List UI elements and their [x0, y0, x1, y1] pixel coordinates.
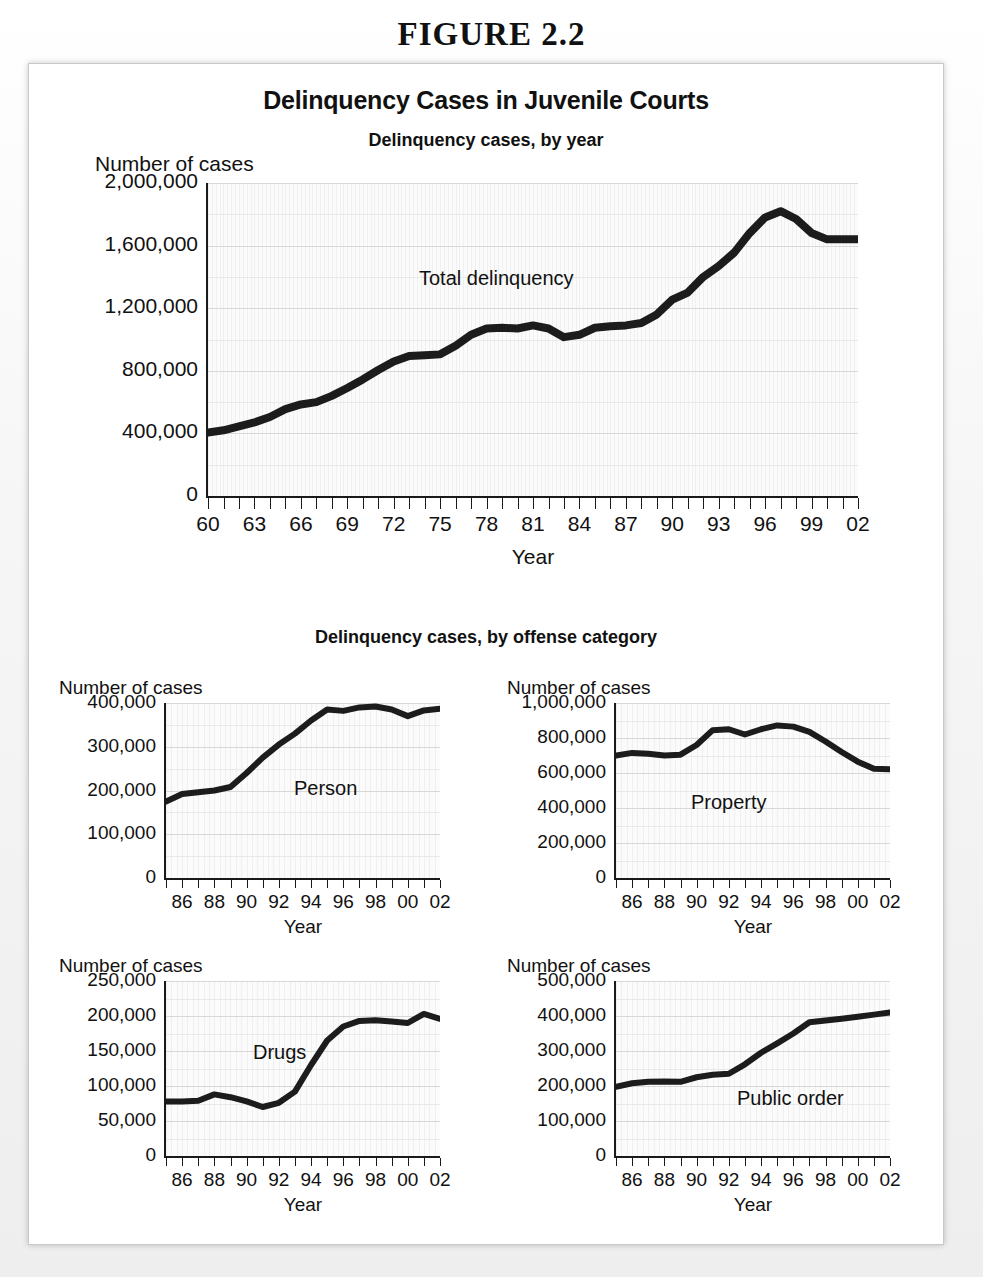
- x-tick-mark: [270, 498, 271, 509]
- x-tick-mark: [533, 498, 534, 509]
- y-tick-label: 1,200,000: [29, 294, 198, 318]
- x-tick-mark: [734, 498, 735, 509]
- x-tick-mark: [279, 1158, 280, 1166]
- x-tick-mark: [424, 880, 425, 888]
- x-tick-mark: [761, 880, 762, 888]
- x-tick-mark: [247, 1158, 248, 1166]
- x-tick-label: 02: [412, 1169, 468, 1191]
- y-axis-line: [614, 981, 616, 1156]
- y-tick-label: 400,000: [469, 796, 606, 818]
- y-tick-label: 200,000: [469, 1074, 606, 1096]
- series-label-total: Total delinquency: [419, 267, 574, 290]
- x-tick-mark: [549, 498, 550, 509]
- x-tick-mark: [208, 498, 209, 509]
- x-tick-mark: [518, 498, 519, 509]
- y-tick-label: 0: [29, 866, 156, 888]
- x-tick-mark: [777, 880, 778, 888]
- x-axis-title: Year: [166, 1194, 440, 1216]
- y-tick-label: 50,000: [29, 1109, 156, 1131]
- x-tick-mark: [311, 1158, 312, 1166]
- chart-public-order: 0100,000200,000300,000400,000500,0008688…: [469, 955, 939, 1245]
- x-tick-mark: [843, 498, 844, 509]
- y-axis-title: Number of cases: [59, 677, 203, 699]
- x-tick-mark: [424, 1158, 425, 1166]
- x-tick-mark: [247, 880, 248, 888]
- x-tick-mark: [697, 1158, 698, 1166]
- x-tick-mark: [198, 880, 199, 888]
- figure-page: FIGURE 2.2 Delinquency Cases in Juvenile…: [0, 0, 983, 1277]
- x-tick-mark: [440, 498, 441, 509]
- x-tick-mark: [793, 1158, 794, 1166]
- x-tick-mark: [378, 498, 379, 509]
- x-tick-mark: [632, 880, 633, 888]
- x-tick-mark: [254, 498, 255, 509]
- chart-total-delinquency: 0400,000800,0001,200,0001,600,0002,000,0…: [29, 160, 945, 615]
- x-tick-mark: [359, 1158, 360, 1166]
- x-tick-mark: [166, 1158, 167, 1166]
- y-tick-label: 200,000: [469, 831, 606, 853]
- y-tick-label: 200,000: [29, 1004, 156, 1026]
- x-tick-mark: [440, 1158, 441, 1166]
- x-tick-mark: [890, 1158, 891, 1166]
- x-tick-mark: [263, 1158, 264, 1166]
- y-tick-label: 0: [29, 1144, 156, 1166]
- y-tick-label: 150,000: [29, 1039, 156, 1061]
- x-axis-title: Year: [616, 1194, 890, 1216]
- x-tick-mark: [681, 880, 682, 888]
- chart-person: 0100,000200,000300,000400,00086889092949…: [29, 677, 489, 967]
- x-tick-mark: [327, 1158, 328, 1166]
- subtitle-by-offense-category: Delinquency cases, by offense category: [29, 627, 943, 648]
- x-tick-mark: [681, 1158, 682, 1166]
- x-tick-mark: [408, 880, 409, 888]
- x-tick-mark: [874, 880, 875, 888]
- data-line-public-order: [616, 981, 890, 1156]
- x-tick-mark: [231, 880, 232, 888]
- x-tick-mark: [343, 1158, 344, 1166]
- series-label-public-order: Public order: [737, 1087, 844, 1110]
- x-tick-mark: [713, 880, 714, 888]
- x-tick-mark: [761, 1158, 762, 1166]
- x-tick-mark: [688, 498, 689, 509]
- chart-drugs: 050,000100,000150,000200,000250,00086889…: [29, 955, 489, 1245]
- y-tick-label: 0: [469, 1144, 606, 1166]
- x-tick-mark: [224, 498, 225, 509]
- y-axis-line: [164, 703, 166, 878]
- x-tick-mark: [311, 880, 312, 888]
- plot-area-public-order: [616, 981, 890, 1156]
- x-tick-mark: [793, 880, 794, 888]
- figure-number: FIGURE 2.2: [0, 16, 983, 53]
- x-tick-mark: [729, 1158, 730, 1166]
- x-tick-mark: [858, 880, 859, 888]
- x-tick-mark: [826, 880, 827, 888]
- y-tick-label: 100,000: [469, 1109, 606, 1131]
- y-axis-title: Number of cases: [95, 152, 254, 176]
- x-tick-mark: [616, 880, 617, 888]
- x-tick-mark: [425, 498, 426, 509]
- y-axis-title: Number of cases: [59, 955, 203, 977]
- x-tick-mark: [214, 880, 215, 888]
- x-tick-mark: [719, 498, 720, 509]
- x-tick-mark: [579, 498, 580, 509]
- x-tick-mark: [392, 1158, 393, 1166]
- x-tick-label: 02: [862, 891, 918, 913]
- series-label-property: Property: [691, 791, 767, 814]
- x-tick-mark: [595, 498, 596, 509]
- x-tick-mark: [626, 498, 627, 509]
- x-tick-mark: [295, 880, 296, 888]
- x-tick-mark: [745, 1158, 746, 1166]
- x-tick-mark: [809, 880, 810, 888]
- series-label-drugs: Drugs: [253, 1041, 306, 1064]
- y-tick-label: 800,000: [29, 357, 198, 381]
- x-tick-mark: [697, 880, 698, 888]
- x-tick-mark: [632, 1158, 633, 1166]
- y-tick-label: 0: [29, 482, 198, 506]
- x-tick-mark: [394, 498, 395, 509]
- x-tick-mark: [827, 498, 828, 509]
- x-tick-mark: [657, 498, 658, 509]
- x-tick-mark: [279, 880, 280, 888]
- y-tick-label: 200,000: [29, 779, 156, 801]
- plot-area-total: [208, 183, 858, 496]
- x-tick-mark: [641, 498, 642, 509]
- y-tick-label: 100,000: [29, 1074, 156, 1096]
- y-axis-title: Number of cases: [507, 955, 651, 977]
